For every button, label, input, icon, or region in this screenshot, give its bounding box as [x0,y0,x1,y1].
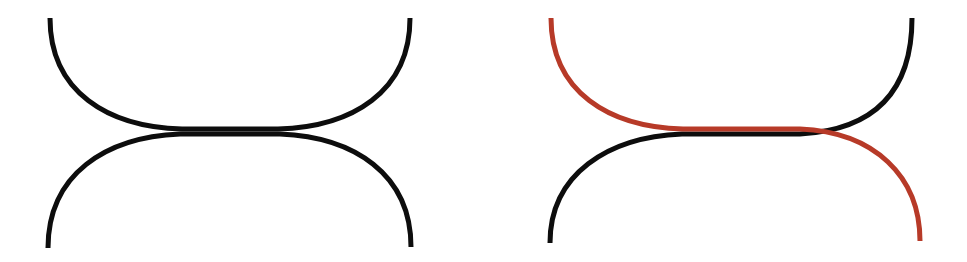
curve-diagram-canvas [0,0,967,262]
figure-root [0,0,967,262]
